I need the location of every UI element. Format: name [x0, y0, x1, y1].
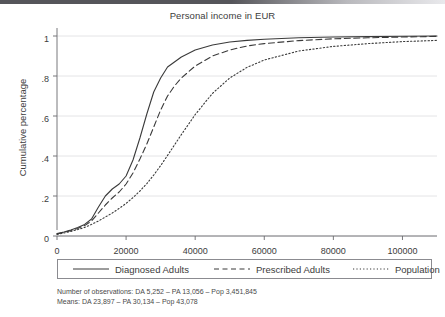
chart-footnotes: Number of observations: DA 5,252 – PA 13…: [57, 287, 257, 306]
legend-key-dotted-icon: [352, 264, 390, 274]
legend-label-diagnosed-adults: Diagnosed Adults: [115, 264, 189, 275]
legend-item-population: Population: [352, 264, 440, 275]
x-tick-label: 80000: [303, 246, 363, 256]
y-tick-marks: [53, 36, 57, 236]
gridlines: [57, 36, 437, 236]
data-series: [57, 36, 437, 234]
y-tick-label: .8: [23, 74, 49, 84]
x-tick-label: 100000: [372, 246, 432, 256]
legend-key-solid-icon: [72, 264, 110, 274]
y-tick-label: 1: [23, 34, 49, 44]
footnote-observations: Number of observations: DA 5,252 – PA 13…: [57, 287, 257, 297]
y-tick-label: .4: [23, 154, 49, 164]
legend-key-dashed-icon: [213, 264, 251, 274]
series-line-diagnosed-adults: [57, 36, 437, 234]
chart-figure: Personal income in EUR Cumulative percen…: [0, 4, 445, 317]
footnote-means: Means: DA 23,897 – PA 30,134 – Pop 43,07…: [57, 297, 257, 307]
chart-legend: Diagnosed Adults Prescribed Adults Popul…: [57, 259, 432, 279]
legend-item-prescribed-adults: Prescribed Adults: [213, 264, 330, 275]
series-line-population: [57, 40, 437, 234]
legend-label-prescribed-adults: Prescribed Adults: [256, 264, 330, 275]
y-tick-label: .6: [23, 114, 49, 124]
legend-item-diagnosed-adults: Diagnosed Adults: [72, 264, 189, 275]
axis-lines: [57, 28, 437, 236]
y-tick-label: .2: [23, 194, 49, 204]
x-tick-marks: [57, 236, 402, 240]
x-tick-label: 40000: [165, 246, 225, 256]
x-tick-label: 60000: [234, 246, 294, 256]
y-tick-label: 0: [23, 234, 49, 244]
series-line-prescribed-adults: [57, 36, 437, 234]
x-tick-label: 20000: [96, 246, 156, 256]
x-tick-label: 0: [27, 246, 87, 256]
legend-label-population: Population: [395, 264, 440, 275]
